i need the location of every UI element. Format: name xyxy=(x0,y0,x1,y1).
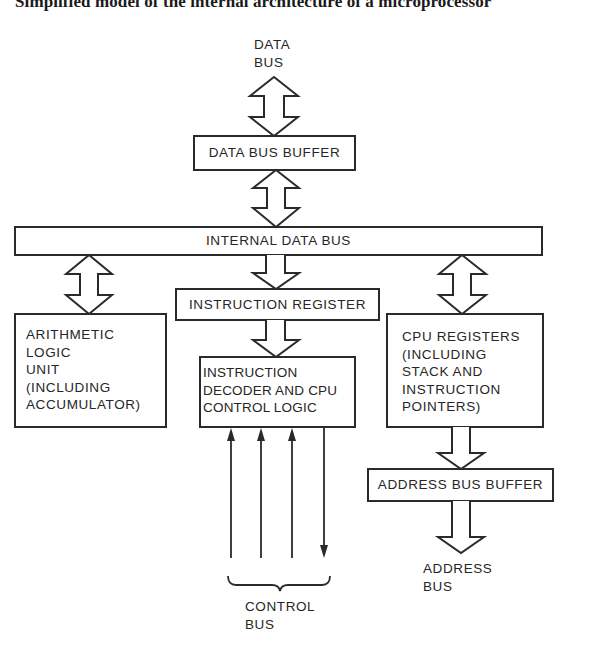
alu-double-arrow xyxy=(66,255,112,314)
buffer-internal-double-arrow xyxy=(253,170,299,227)
internal-data-bus-label: INTERNAL DATA BUS xyxy=(15,232,542,250)
address-bus-down-arrow xyxy=(438,501,484,553)
address-bus-label: ADDRESS BUS xyxy=(423,560,492,595)
cpu-registers-label: CPU REGISTERS (INCLUDING STACK AND INSTR… xyxy=(402,328,520,416)
control-bus-brace xyxy=(228,576,330,591)
instruction-decoder-label: INSTRUCTION DECODER AND CPU CONTROL LOGI… xyxy=(203,364,337,417)
address-bus-buffer-label: ADDRESS BUS BUFFER xyxy=(368,476,553,494)
decoder-down-arrow xyxy=(253,320,299,357)
data-bus-buffer-label: DATA BUS BUFFER xyxy=(194,144,355,162)
data-bus-double-arrow xyxy=(250,77,298,136)
control-lines xyxy=(227,427,328,558)
alu-label: ARITHMETIC LOGIC UNIT (INCLUDING ACCUMUL… xyxy=(26,326,141,414)
cpu-registers-double-arrow xyxy=(439,255,486,314)
address-buffer-down-arrow xyxy=(438,427,484,469)
instruction-register-down-arrow xyxy=(253,255,299,289)
control-bus-label: CONTROL BUS xyxy=(245,598,315,633)
instruction-register-label: INSTRUCTION REGISTER xyxy=(176,296,379,314)
data-bus-label: DATA BUS xyxy=(254,36,290,71)
